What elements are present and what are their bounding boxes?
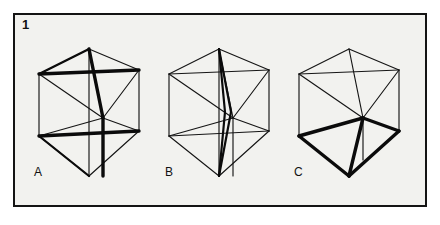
panel-label-b: B — [165, 166, 173, 178]
plate-frame — [13, 13, 427, 207]
panel-label-a: A — [34, 166, 42, 178]
figure-plate: 1 — [0, 0, 440, 225]
panel-label-c: C — [294, 166, 303, 178]
figure-number: 1 — [22, 18, 29, 31]
